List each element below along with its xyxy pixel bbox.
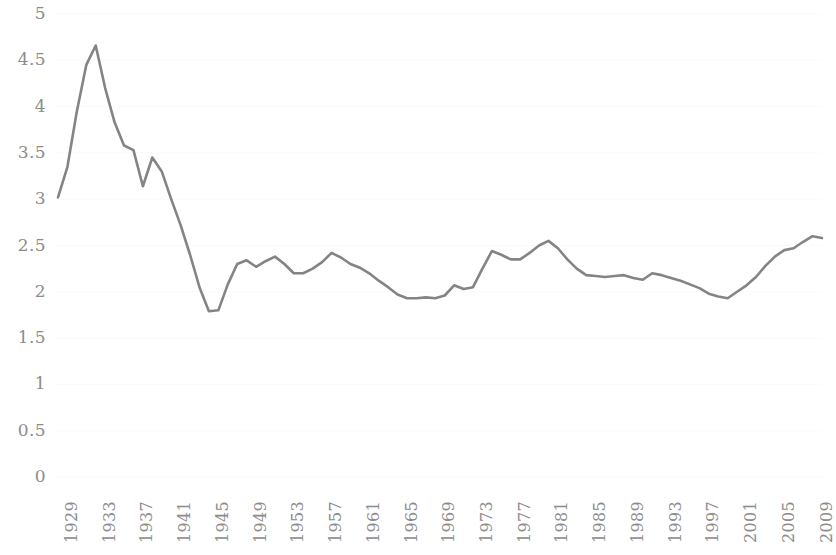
x-tick-label: 2009 xyxy=(819,501,835,543)
x-tick-label: 1953 xyxy=(290,501,306,543)
x-tick-label: 1933 xyxy=(102,501,118,543)
x-tick-label: 1957 xyxy=(328,501,344,543)
x-tick-label: 1997 xyxy=(705,501,721,543)
x-tick-label: 1945 xyxy=(215,501,231,543)
x-tick-label: 1993 xyxy=(668,501,684,543)
x-tick-label: 1965 xyxy=(404,501,420,543)
x-tick-label: 1973 xyxy=(479,501,495,543)
x-tick-label: 2001 xyxy=(743,501,759,543)
x-tick-label: 1989 xyxy=(630,501,646,543)
x-tick-label: 1985 xyxy=(592,501,608,543)
x-tick-label: 2005 xyxy=(781,501,797,543)
x-tick-label: 1969 xyxy=(441,501,457,543)
x-tick-label: 1941 xyxy=(177,501,193,543)
x-tick-label: 1981 xyxy=(554,501,570,543)
x-tick-label: 1949 xyxy=(253,501,269,543)
x-tick-label: 1977 xyxy=(517,501,533,543)
x-tick-label: 1929 xyxy=(64,501,80,543)
x-tick-label: 1961 xyxy=(366,501,382,543)
x-tick-label: 1937 xyxy=(139,501,155,543)
